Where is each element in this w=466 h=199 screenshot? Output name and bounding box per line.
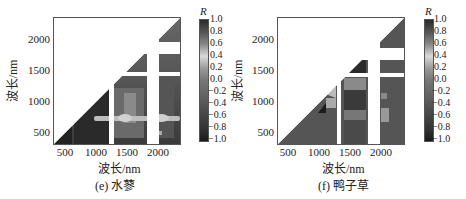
xlabel-f: 波长/nm <box>322 159 365 177</box>
panel-f: 2000 1500 1000 500 500 1000 1500 2000 波长… <box>233 0 466 199</box>
cbtick: 0.2 <box>434 61 447 72</box>
cbtick: 0.2 <box>210 61 223 72</box>
cbtick: −0.4 <box>208 97 226 108</box>
cbtick: −0.8 <box>208 121 226 132</box>
cbtick: 1.0 <box>434 13 447 24</box>
heatmap-plot-e <box>53 17 181 145</box>
ytick-e-500: 500 <box>14 126 50 138</box>
cbtick: −0.2 <box>208 85 226 96</box>
cbtick: −0.6 <box>432 109 450 120</box>
cbtick: 0.4 <box>434 49 447 60</box>
caption-e: (e) 水蓼 <box>95 176 135 194</box>
ylabel-e: 波长/nm <box>3 60 21 103</box>
xlabel-e: 波长/nm <box>98 159 141 177</box>
caption-f: (f) 鸭子草 <box>318 176 369 194</box>
heatmap-f-graphic <box>278 18 404 144</box>
panel-e: 2000 1500 1000 500 500 1000 1500 2000 波长… <box>0 0 233 199</box>
cbtick: −1.0 <box>432 133 450 144</box>
cbtick: −0.2 <box>432 85 450 96</box>
colorbar-title-f: R <box>425 5 432 17</box>
ylabel-f: 波长/nm <box>228 60 246 103</box>
cbtick: 0.8 <box>434 25 447 36</box>
cbtick: 0.4 <box>210 49 223 60</box>
xtick-e-2000: 2000 <box>140 146 176 158</box>
xtick-f-2000: 2000 <box>363 146 399 158</box>
ytick-f-2000: 2000 <box>238 33 274 45</box>
cbtick: −0.8 <box>432 121 450 132</box>
cbtick: 0.0 <box>434 73 447 84</box>
heatmap-e-graphic <box>54 18 180 144</box>
cbtick: 0.8 <box>210 25 223 36</box>
cbtick: 0.6 <box>434 37 447 48</box>
cbtick: 0.6 <box>210 37 223 48</box>
cbtick: 0.0 <box>210 73 223 84</box>
cbtick: −0.4 <box>432 97 450 108</box>
ytick-f-500: 500 <box>238 126 274 138</box>
cbtick: 1.0 <box>210 13 223 24</box>
heatmap-plot-f <box>277 17 405 145</box>
cbtick: −1.0 <box>208 133 226 144</box>
colorbar-title-e: R <box>200 5 207 17</box>
cbtick: −0.6 <box>208 109 226 120</box>
ytick-e-2000: 2000 <box>14 33 50 45</box>
